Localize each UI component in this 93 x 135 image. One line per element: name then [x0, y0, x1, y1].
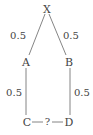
label-x-b: 0.5: [63, 30, 79, 41]
node-x: X: [43, 3, 51, 16]
node-c: C: [23, 116, 31, 129]
edge-x-a: [29, 14, 45, 55]
pedigree-diagram: X A B C D 0.5 0.5 0.5 0.5 ?: [0, 0, 93, 135]
node-b: B: [65, 56, 73, 69]
label-b-d: 0.5: [74, 87, 90, 98]
node-d: D: [65, 116, 74, 129]
node-a: A: [21, 56, 31, 69]
label-a-c: 0.5: [6, 87, 22, 98]
label-x-a: 0.5: [10, 30, 26, 41]
label-c-d-unknown: ?: [45, 116, 50, 127]
